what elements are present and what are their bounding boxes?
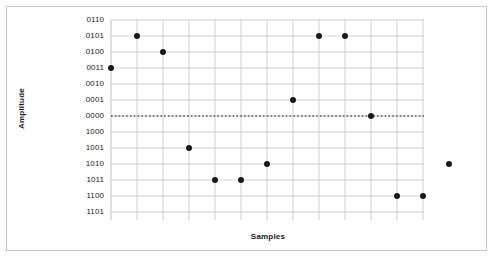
data-point: [316, 33, 322, 39]
y-axis-tick-label: 0010: [70, 79, 104, 88]
data-point: [160, 49, 166, 55]
y-axis-tick-label: 1100: [70, 191, 104, 200]
data-point: [446, 161, 452, 167]
data-point: [134, 33, 140, 39]
data-point: [394, 193, 400, 199]
vertical-gridlines: [111, 20, 423, 220]
data-point: [290, 97, 296, 103]
y-axis-tick-label: 0000: [70, 111, 104, 120]
data-point: [186, 145, 192, 151]
y-axis-tick-label: 1000: [70, 127, 104, 136]
y-axis-tick-label: 0001: [70, 95, 104, 104]
data-point: [420, 193, 426, 199]
y-axis-tick-label: 1010: [70, 159, 104, 168]
data-point: [108, 65, 114, 71]
y-axis-tick-label: 1011: [70, 175, 104, 184]
y-axis-tick-label: 1001: [70, 143, 104, 152]
y-axis-title: Amplitude: [17, 67, 26, 151]
data-point: [212, 177, 218, 183]
y-axis-tick-label: 1101: [70, 207, 104, 216]
y-axis-tick-label: 0101: [70, 31, 104, 40]
y-axis-tick-label: 0011: [70, 63, 104, 72]
data-point: [368, 113, 374, 119]
data-point: [342, 33, 348, 39]
data-point: [264, 161, 270, 167]
y-axis-tick-label: 0110: [70, 15, 104, 24]
data-point: [238, 177, 244, 183]
y-axis-tick-label: 0100: [70, 47, 104, 56]
x-axis-title: Samples: [111, 232, 425, 241]
